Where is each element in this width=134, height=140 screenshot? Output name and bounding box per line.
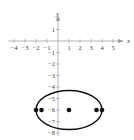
vertex-point bbox=[100, 108, 105, 113]
y-axis-label: y bbox=[55, 10, 60, 18]
y-tick-label: 1 bbox=[52, 26, 55, 33]
x-tick-label: 4 bbox=[100, 44, 104, 51]
x-tick-label: 5 bbox=[111, 44, 114, 51]
y-tick-label: −2 bbox=[48, 60, 55, 67]
x-tick-label: −3 bbox=[22, 44, 29, 51]
y-tick-label: −7 bbox=[48, 118, 56, 125]
x-axis-arrow-icon bbox=[118, 39, 124, 43]
vertex-point bbox=[34, 108, 39, 113]
x-axis-label: x bbox=[126, 37, 131, 45]
focus-point bbox=[39, 108, 44, 113]
y-tick-label: −4 bbox=[48, 83, 56, 90]
tick-marks bbox=[14, 18, 113, 133]
center-point bbox=[67, 108, 72, 113]
y-tick-label: −6 bbox=[48, 106, 56, 113]
y-tick-label: −8 bbox=[48, 129, 55, 136]
tick-labels: −4−3−2−1123451−1−2−3−4−5−6−7−8 bbox=[11, 26, 115, 137]
y-tick-label: −1 bbox=[48, 49, 55, 56]
x-tick-label: 3 bbox=[89, 44, 92, 51]
x-tick-label: 1 bbox=[67, 44, 70, 51]
data-points bbox=[34, 108, 105, 113]
y-tick-label: −5 bbox=[48, 95, 55, 102]
coordinate-plot: −4−3−2−1123451−1−2−3−4−5−6−7−8 x y bbox=[0, 0, 134, 140]
y-tick-label: −3 bbox=[48, 72, 55, 79]
x-tick-label: −2 bbox=[33, 44, 40, 51]
x-tick-label: −4 bbox=[11, 44, 19, 51]
axes bbox=[8, 15, 124, 136]
x-tick-label: 2 bbox=[78, 44, 81, 51]
focus-point bbox=[94, 108, 99, 113]
